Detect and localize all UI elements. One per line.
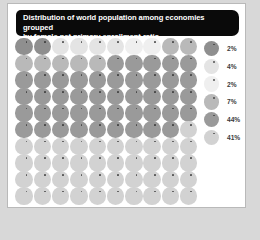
dot-matrix-cell bbox=[33, 187, 51, 204]
marker-notch-icon bbox=[136, 124, 138, 126]
dot-matrix-cell bbox=[143, 104, 161, 121]
dot-matrix-cell bbox=[125, 55, 143, 72]
marker-notch-icon bbox=[136, 108, 138, 110]
unit-marker-icon bbox=[89, 88, 106, 105]
marker-notch-icon bbox=[99, 74, 101, 76]
unit-marker-icon bbox=[70, 38, 87, 55]
marker-notch-icon bbox=[172, 191, 174, 193]
dot-matrix-cell bbox=[88, 138, 106, 155]
legend-item[interactable]: 7% bbox=[204, 93, 254, 110]
unit-marker-icon bbox=[107, 121, 124, 138]
unit-marker-icon bbox=[180, 88, 197, 105]
dot-matrix-cell bbox=[125, 121, 143, 138]
legend-item[interactable]: 2% bbox=[204, 76, 254, 93]
unit-marker-icon bbox=[162, 121, 179, 138]
marker-notch-icon bbox=[154, 174, 156, 176]
unit-marker-icon bbox=[125, 187, 142, 204]
dot-matrix-cell bbox=[125, 171, 143, 188]
dot-matrix-cell bbox=[15, 138, 33, 155]
unit-marker-icon bbox=[70, 154, 87, 171]
unit-marker-icon bbox=[162, 154, 179, 171]
dot-matrix-cell bbox=[106, 121, 124, 138]
dot-matrix-row bbox=[15, 38, 198, 55]
dot-matrix-cell bbox=[52, 71, 70, 88]
dot-matrix-row bbox=[15, 154, 198, 171]
dot-matrix-cell bbox=[180, 187, 198, 204]
unit-marker-icon bbox=[125, 104, 142, 121]
unit-marker-icon bbox=[52, 121, 69, 138]
dot-matrix-cell bbox=[88, 38, 106, 55]
dot-matrix-cell bbox=[88, 55, 106, 72]
dot-matrix-cell bbox=[161, 187, 179, 204]
dot-matrix-cell bbox=[70, 38, 88, 55]
unit-marker-icon bbox=[180, 187, 197, 204]
unit-marker-icon bbox=[162, 171, 179, 188]
dot-matrix-cell bbox=[180, 121, 198, 138]
unit-marker-icon bbox=[15, 138, 32, 155]
unit-marker-icon bbox=[107, 187, 124, 204]
dot-matrix-cell bbox=[125, 71, 143, 88]
dot-matrix-cell bbox=[180, 138, 198, 155]
legend-item[interactable]: 2% bbox=[204, 40, 254, 57]
legend-item[interactable]: 4% bbox=[204, 58, 254, 75]
legend-item[interactable]: 44% bbox=[204, 111, 254, 128]
unit-marker-icon bbox=[107, 38, 124, 55]
unit-marker-icon bbox=[89, 71, 106, 88]
dot-matrix-cell bbox=[125, 104, 143, 121]
marker-notch-icon bbox=[190, 141, 192, 143]
dot-matrix-cell bbox=[15, 71, 33, 88]
unit-marker-icon bbox=[125, 38, 142, 55]
dot-matrix-cell bbox=[143, 138, 161, 155]
dot-matrix-cell bbox=[180, 55, 198, 72]
marker-notch-icon bbox=[62, 74, 64, 76]
legend-notch-icon bbox=[213, 97, 215, 99]
dot-matrix-cell bbox=[15, 187, 33, 204]
marker-notch-icon bbox=[172, 58, 174, 60]
dot-matrix-cell bbox=[125, 38, 143, 55]
marker-notch-icon bbox=[136, 157, 138, 159]
marker-notch-icon bbox=[62, 91, 64, 93]
unit-marker-icon bbox=[107, 154, 124, 171]
marker-notch-icon bbox=[136, 191, 138, 193]
marker-notch-icon bbox=[62, 157, 64, 159]
dot-matrix-row bbox=[15, 88, 198, 105]
marker-notch-icon bbox=[44, 41, 46, 43]
unit-marker-icon bbox=[70, 171, 87, 188]
marker-notch-icon bbox=[172, 124, 174, 126]
dot-matrix-cell bbox=[161, 88, 179, 105]
marker-notch-icon bbox=[81, 58, 83, 60]
marker-notch-icon bbox=[190, 174, 192, 176]
dot-matrix-cell bbox=[52, 55, 70, 72]
dot-matrix-row bbox=[15, 187, 198, 204]
unit-marker-icon bbox=[125, 138, 142, 155]
unit-marker-icon bbox=[89, 121, 106, 138]
marker-notch-icon bbox=[136, 74, 138, 76]
marker-notch-icon bbox=[117, 124, 119, 126]
unit-marker-icon bbox=[143, 138, 160, 155]
marker-notch-icon bbox=[44, 108, 46, 110]
marker-notch-icon bbox=[99, 174, 101, 176]
dot-matrix-cell bbox=[15, 154, 33, 171]
marker-notch-icon bbox=[154, 124, 156, 126]
marker-notch-icon bbox=[62, 124, 64, 126]
dot-matrix-cell bbox=[33, 121, 51, 138]
dot-matrix-cell bbox=[15, 88, 33, 105]
marker-notch-icon bbox=[26, 124, 28, 126]
marker-notch-icon bbox=[62, 108, 64, 110]
dot-matrix-cell bbox=[143, 71, 161, 88]
unit-marker-icon bbox=[143, 171, 160, 188]
unit-marker-icon bbox=[15, 187, 32, 204]
legend-notch-icon bbox=[213, 133, 215, 135]
marker-notch-icon bbox=[44, 191, 46, 193]
marker-notch-icon bbox=[190, 91, 192, 93]
dot-matrix-cell bbox=[143, 171, 161, 188]
dot-matrix-cell bbox=[88, 88, 106, 105]
unit-marker-icon bbox=[125, 154, 142, 171]
legend-marker-icon bbox=[204, 112, 219, 127]
dot-matrix-cell bbox=[106, 38, 124, 55]
marker-notch-icon bbox=[117, 157, 119, 159]
legend-item[interactable]: 41% bbox=[204, 129, 254, 146]
marker-notch-icon bbox=[117, 108, 119, 110]
dot-matrix-cell bbox=[33, 154, 51, 171]
legend-notch-icon bbox=[213, 61, 215, 63]
